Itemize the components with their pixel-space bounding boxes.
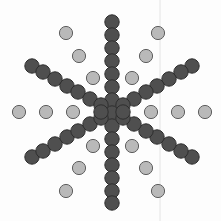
light-circle	[171, 105, 184, 118]
dark-circle	[116, 105, 130, 119]
light-circle	[72, 49, 85, 62]
light-circle	[66, 105, 79, 118]
light-circle	[59, 26, 72, 39]
light-circle	[151, 184, 164, 197]
light-circle	[39, 105, 52, 118]
light-circle	[139, 161, 152, 174]
light-circle	[125, 139, 138, 152]
dot-pattern-figure	[0, 0, 221, 221]
dark-circle	[105, 196, 119, 210]
dark-circle	[105, 145, 119, 159]
dark-circle	[105, 67, 119, 81]
dark-circle	[105, 54, 119, 68]
light-circle	[12, 105, 25, 118]
light-circle	[151, 26, 164, 39]
dark-circle	[105, 132, 119, 146]
light-circle	[125, 71, 138, 84]
light-circle	[72, 161, 85, 174]
dark-circle	[105, 158, 119, 172]
dark-circle	[105, 80, 119, 94]
light-circle	[86, 139, 99, 152]
light-circle	[86, 71, 99, 84]
dark-circle	[94, 105, 108, 119]
dark-circle	[105, 41, 119, 55]
dark-circle	[105, 28, 119, 42]
light-circle	[198, 105, 211, 118]
dark-circle	[105, 171, 119, 185]
light-circle	[59, 184, 72, 197]
dark-circle	[105, 15, 119, 29]
light-circle	[144, 105, 157, 118]
light-circle	[139, 49, 152, 62]
star-dot-pattern	[0, 0, 221, 221]
